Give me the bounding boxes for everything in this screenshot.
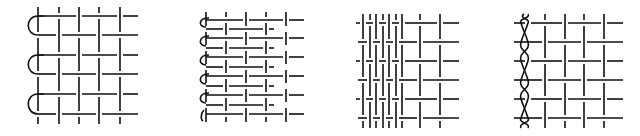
panel-4-braided-edge-weave (0, 0, 640, 136)
braid-strand (521, 14, 529, 128)
weave-diagram-figure (0, 0, 640, 136)
